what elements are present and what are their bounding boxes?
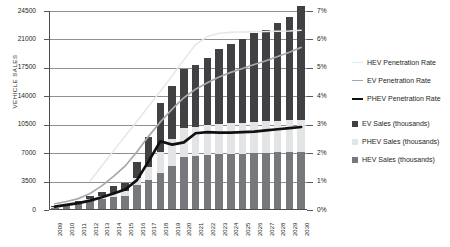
x-axis-tick-label: 2023	[222, 223, 228, 236]
y-axis-tick-mark	[44, 210, 49, 211]
y2-axis-tick-mark	[307, 125, 313, 126]
x-axis-tick-label: 2021	[198, 223, 204, 236]
y2-axis-tick-mark	[307, 153, 313, 154]
y-axis-tick-label: 7000	[21, 150, 36, 157]
y-axis-line	[49, 11, 50, 210]
legend-item[interactable]: EV Sales (thousands)	[352, 120, 430, 127]
y-axis-tick-label: 0	[32, 207, 36, 214]
legend-item-label: EV Penetration Rate	[367, 77, 431, 84]
y2-axis-tick-mark	[307, 182, 313, 183]
legend-item[interactable]: HEV Sales (thousands)	[352, 156, 435, 163]
x-axis-tick-label: 2017	[151, 223, 157, 236]
x-axis-tick-label: 2026	[257, 223, 263, 236]
y2-axis-tick-label: 6%	[317, 36, 327, 43]
line-series	[55, 127, 301, 207]
legend-item-label: PHEV Penetration Rate	[367, 95, 441, 102]
x-axis-tick-label: 2015	[128, 223, 134, 236]
legend-box-swatch	[352, 139, 358, 145]
legend-item-label: HEV Sales (thousands)	[362, 156, 435, 163]
y2-axis-tick-label: 2%	[317, 150, 327, 157]
legend-item[interactable]: PHEV Penetration Rate	[352, 95, 441, 102]
y2-axis-tick-mark	[307, 210, 313, 211]
x-axis-tick-label: 2027	[269, 223, 275, 236]
y2-axis-tick-mark	[307, 11, 313, 12]
legend-item[interactable]: EV Penetration Rate	[352, 77, 431, 84]
y2-axis-tick-mark	[307, 96, 313, 97]
line-series	[90, 30, 301, 181]
y2-axis-tick-label: 4%	[317, 93, 327, 100]
x-axis-line	[49, 209, 307, 210]
x-axis-tick-label: 2028	[280, 223, 286, 236]
y2-axis-tick-mark	[307, 39, 313, 40]
y2-axis-tick-label: 7%	[317, 8, 327, 15]
legend-box-swatch	[352, 121, 358, 127]
x-axis-tick-label: 2014	[116, 223, 122, 236]
x-axis-labels: 2009201020112012201320142015201620172018…	[49, 212, 307, 247]
x-axis-tick-label: 2010	[69, 223, 75, 236]
chart-legend: HEV Penetration RateEV Penetration RateP…	[352, 0, 450, 247]
legend-item[interactable]: PHEV Sales (thousands)	[352, 138, 439, 145]
x-axis-tick-label: 2019	[175, 223, 181, 236]
y-axis-tick-label: 14000	[18, 93, 36, 100]
y2-axis-tick-label: 3%	[317, 121, 327, 128]
legend-line-swatch	[352, 80, 363, 81]
y-axis-tick-label: 10500	[18, 121, 36, 128]
legend-line-swatch	[352, 62, 363, 63]
y2-axis-tick-label: 0%	[317, 207, 327, 214]
legend-line-swatch	[352, 98, 363, 100]
legend-item-label: PHEV Sales (thousands)	[362, 138, 439, 145]
legend-item[interactable]: HEV Penetration Rate	[352, 59, 436, 66]
line-series	[55, 47, 301, 203]
x-axis-tick-label: 2013	[104, 223, 110, 236]
y2-axis-tick-mark	[307, 68, 313, 69]
y-axis-tick-label: 21000	[18, 36, 36, 43]
y-axis-right-ticks: 0%1%2%3%4%5%6%7%	[313, 0, 341, 247]
y-axis-left-ticks: 0350070001050014000175002100024500	[0, 0, 45, 247]
x-axis-tick-label: 2029	[292, 223, 298, 236]
x-axis-tick-label: 2009	[57, 223, 63, 236]
x-axis-tick-label: 2018	[163, 223, 169, 236]
y-axis-tick-label: 3500	[21, 178, 36, 185]
y2-axis-tick-label: 5%	[317, 64, 327, 71]
x-axis-tick-label: 2022	[210, 223, 216, 236]
x-axis-tick-label: 2030	[304, 223, 310, 236]
chart-container: VEHICLE SALES 03500700010500140001750021…	[0, 0, 450, 247]
y2-axis-tick-label: 1%	[317, 178, 327, 185]
x-axis-tick-label: 2012	[93, 223, 99, 236]
x-axis-tick-label: 2025	[245, 223, 251, 236]
x-axis-tick-label: 2016	[140, 223, 146, 236]
y-axis-tick-label: 24500	[18, 8, 36, 15]
legend-box-swatch	[352, 157, 358, 163]
y-axis-tick-label: 17500	[18, 64, 36, 71]
x-axis-tick-label: 2020	[186, 223, 192, 236]
legend-item-label: HEV Penetration Rate	[367, 59, 436, 66]
x-axis-tick-label: 2024	[233, 223, 239, 236]
line-series-layer	[49, 11, 307, 210]
plot-area	[49, 11, 307, 210]
x-axis-tick-label: 2011	[81, 223, 87, 236]
legend-item-label: EV Sales (thousands)	[362, 120, 430, 127]
